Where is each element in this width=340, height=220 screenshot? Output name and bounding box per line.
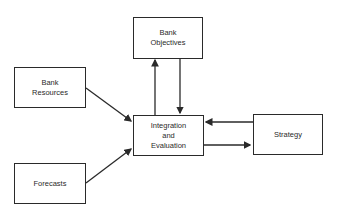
node-strategy: Strategy	[253, 114, 323, 155]
node-label: Integration and Evaluation	[151, 121, 186, 151]
node-label: Forecasts	[34, 179, 67, 189]
node-label: Bank Objectives	[150, 28, 185, 48]
node-label: Strategy	[274, 130, 302, 140]
node-forecasts: Forecasts	[14, 163, 86, 204]
edge-forecasts-integration	[86, 149, 131, 183]
node-bank-resources: Bank Resources	[14, 67, 86, 108]
node-bank-objectives: Bank Objectives	[133, 17, 203, 59]
node-integration-evaluation: Integration and Evaluation	[133, 115, 204, 156]
node-label: Bank Resources	[32, 78, 68, 98]
edge-resources-integration	[86, 88, 131, 121]
